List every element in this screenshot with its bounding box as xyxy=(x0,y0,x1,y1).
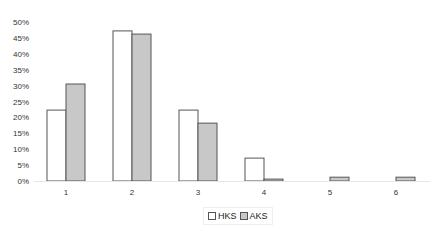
y-axis: 0%5%10%15%20%25%30%35%40%45%50% xyxy=(13,18,29,186)
y-tick-label: 25% xyxy=(13,98,29,107)
bar-aks-4 xyxy=(264,179,283,181)
x-tick-label: 5 xyxy=(328,188,333,197)
y-tick-label: 35% xyxy=(13,66,29,75)
bar-hks-4 xyxy=(245,158,264,181)
y-tick-label: 40% xyxy=(13,50,29,59)
y-tick-label: 10% xyxy=(13,145,29,154)
legend-label: HKS xyxy=(218,211,237,221)
legend-item-aks: AKS xyxy=(240,211,268,221)
legend-label: AKS xyxy=(250,211,268,221)
x-tick-label: 6 xyxy=(394,188,399,197)
bar-aks-6 xyxy=(396,177,415,181)
y-tick-label: 5% xyxy=(17,161,29,170)
bar-hks-2 xyxy=(113,31,132,181)
bar-aks-2 xyxy=(132,34,151,181)
bar-hks-1 xyxy=(47,110,66,181)
y-tick-label: 20% xyxy=(13,113,29,122)
bars xyxy=(47,31,415,181)
bar-aks-1 xyxy=(66,84,85,181)
legend-swatch-hks xyxy=(208,212,216,220)
legend-swatch-aks xyxy=(240,212,248,220)
y-tick-label: 0% xyxy=(17,177,29,186)
y-tick-label: 15% xyxy=(13,129,29,138)
x-axis: 123456 xyxy=(34,182,430,198)
bar-aks-5 xyxy=(330,177,349,181)
bar-aks-3 xyxy=(198,123,217,181)
legend-item-hks: HKS xyxy=(208,211,237,221)
y-tick-label: 50% xyxy=(13,18,29,27)
x-tick-label: 1 xyxy=(64,188,69,197)
x-tick-label: 2 xyxy=(130,188,135,197)
y-tick-label: 45% xyxy=(13,34,29,43)
x-tick-label: 4 xyxy=(262,188,267,197)
bar-hks-3 xyxy=(179,110,198,181)
bar-chart: 0%5%10%15%20%25%30%35%40%45%50% 123456 xyxy=(0,0,436,234)
y-tick-label: 30% xyxy=(13,82,29,91)
legend: HKS AKS xyxy=(203,207,273,225)
x-tick-label: 3 xyxy=(196,188,201,197)
